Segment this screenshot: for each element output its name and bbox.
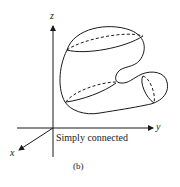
tube-section-back — [143, 76, 154, 103]
bottom-section-back — [66, 82, 116, 102]
y-axis-label: y — [156, 122, 160, 132]
x-axis-label: x — [10, 148, 14, 158]
region-label: Simply connected — [56, 133, 128, 143]
subfigure-label: (b) — [73, 162, 84, 171]
z-axis-label: z — [50, 11, 54, 21]
x-axis — [19, 128, 53, 150]
bottom-section-front — [66, 83, 116, 102]
diagram-canvas — [0, 0, 180, 187]
